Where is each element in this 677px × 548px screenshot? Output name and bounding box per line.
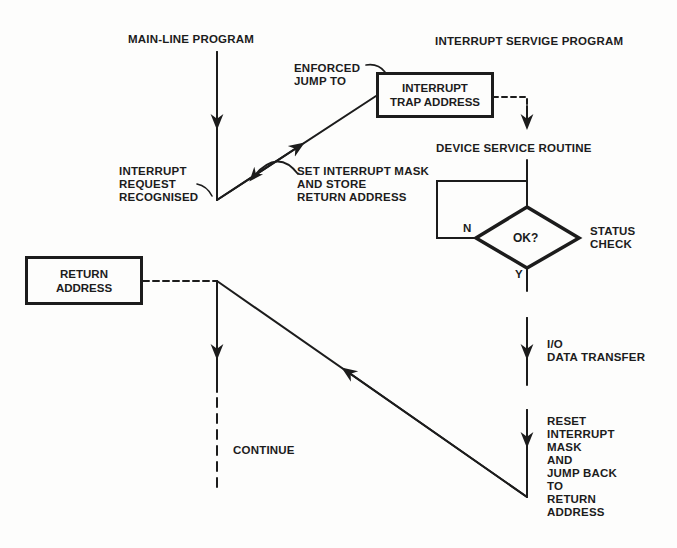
continue-label: CONTINUE	[233, 444, 295, 457]
enforced-jump-label: ENFORCED JUMP TO	[294, 62, 360, 88]
interrupt-request-label: INTERRUPT REQUEST RECOGNISED	[119, 165, 198, 204]
trap-to-service-dashed	[493, 97, 527, 126]
set-mask-label: SET INTERRUPT MASK AND STORE RETURN ADDR…	[297, 165, 429, 204]
return-address-box: RETURN ADDRESS	[25, 256, 143, 305]
request-pointer-curve	[197, 184, 212, 196]
reset-mask-label: RESET INTERRUPT MASK AND JUMP BACK TO RE…	[547, 415, 617, 519]
device-service-label: DEVICE SERVICE ROUTINE	[436, 142, 592, 155]
set-mask-curved-arrow-icon	[254, 161, 298, 176]
io-transfer-label: I/O DATA TRANSFER	[547, 338, 645, 364]
jump-back-arrow-icon	[348, 372, 527, 497]
service-program-heading: INTERRUPT SERVIGE PROGRAM	[435, 35, 623, 48]
interrupt-flow-diagram: MAIN-LINE PROGRAM INTERRUPT SERVIGE PROG…	[0, 0, 677, 548]
decision-text: OK?	[513, 231, 538, 245]
enforced-jump-pointer	[366, 65, 385, 72]
status-check-label: STATUS CHECK	[590, 225, 636, 251]
trap-address-box: INTERRUPT TRAP ADDRESS	[376, 72, 494, 118]
jump-arrow-icon	[217, 147, 298, 200]
yes-branch-label: Y	[515, 268, 523, 281]
main-line-heading: MAIN-LINE PROGRAM	[128, 33, 254, 46]
no-branch-label: N	[463, 222, 472, 235]
